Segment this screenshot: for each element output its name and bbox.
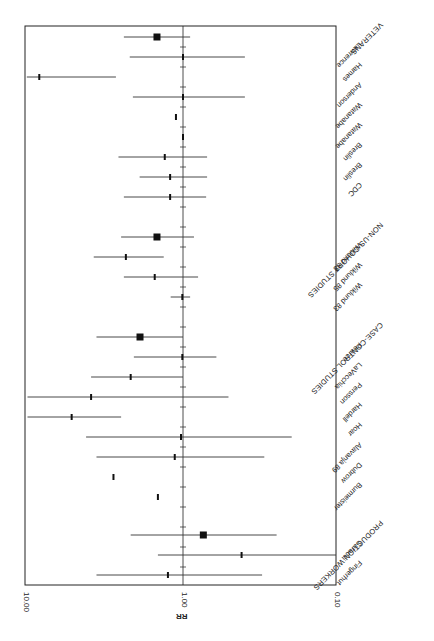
study-estimate	[158, 552, 336, 558]
point-estimate-marker	[169, 174, 171, 180]
point-estimate-marker	[241, 552, 243, 558]
study-estimate	[94, 254, 164, 260]
point-estimate-marker	[125, 254, 127, 260]
point-estimate-marker	[181, 354, 183, 360]
tick-label-0-1: 0.10	[333, 592, 342, 608]
point-estimate-marker	[154, 274, 156, 280]
study-estimate	[86, 434, 292, 440]
study-estimate	[91, 374, 183, 380]
study-estimate	[124, 274, 198, 280]
plot-frame	[25, 26, 336, 585]
x-axis-title: RR	[176, 612, 188, 621]
study-estimate	[133, 94, 245, 100]
summary-square-marker	[153, 234, 160, 241]
study-rows	[27, 34, 336, 579]
point-estimate-marker	[182, 54, 184, 60]
point-estimate-marker	[182, 94, 184, 100]
tick-label-1: 1.00	[180, 592, 189, 608]
study-estimate	[182, 134, 184, 140]
study-estimate	[96, 572, 262, 578]
point-estimate-marker	[71, 414, 73, 420]
study-estimate	[124, 194, 206, 200]
summary-square-marker	[200, 532, 207, 539]
study-estimate	[130, 54, 245, 60]
point-estimate-marker	[180, 434, 182, 440]
point-estimate-marker	[175, 114, 177, 120]
point-estimate-marker	[90, 394, 92, 400]
summary-square-marker	[137, 334, 144, 341]
study-estimate	[118, 154, 207, 160]
point-estimate-marker	[167, 572, 169, 578]
point-estimate-marker	[157, 494, 159, 500]
study-estimate	[28, 394, 229, 400]
summary-square-marker	[153, 34, 160, 41]
point-estimate-marker	[112, 474, 114, 480]
point-estimate-marker	[130, 374, 132, 380]
forest-plot	[0, 0, 434, 641]
summary-estimate	[124, 34, 190, 41]
study-estimate	[134, 354, 217, 360]
tick-label-10: 10.00	[22, 592, 31, 612]
study-estimate	[140, 174, 207, 180]
point-estimate-marker	[164, 154, 166, 160]
summary-estimate	[96, 334, 183, 341]
study-estimate	[27, 74, 116, 80]
study-estimate	[157, 494, 159, 500]
study-estimate	[96, 454, 264, 460]
study-estimate	[28, 414, 122, 420]
study-estimate	[175, 114, 177, 120]
point-estimate-marker	[169, 194, 171, 200]
point-estimate-marker	[182, 134, 184, 140]
point-estimate-marker	[174, 454, 176, 460]
study-estimate	[171, 294, 190, 300]
point-estimate-marker	[181, 294, 183, 300]
study-estimate	[112, 474, 114, 480]
point-estimate-marker	[38, 74, 40, 80]
summary-estimate	[131, 532, 277, 539]
